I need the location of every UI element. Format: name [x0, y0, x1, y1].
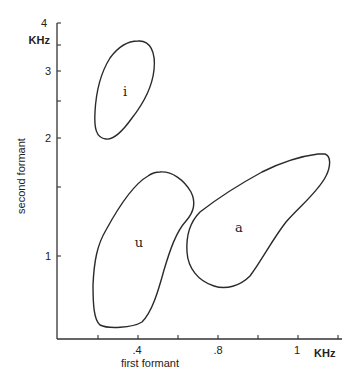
x-tick-label-04: .4	[132, 344, 141, 356]
vowel-label-i: i	[123, 84, 127, 99]
vowel-label-u: u	[135, 235, 143, 250]
x-axis-title: first formant	[121, 357, 179, 369]
y-tick-label-2: 2	[45, 132, 51, 144]
y-tick-label-1: 1	[45, 250, 51, 262]
y-unit-label: KHz	[29, 34, 51, 46]
x-unit-label: KHz	[314, 347, 336, 359]
y-tick-label-3: 3	[45, 65, 51, 77]
y-axis-title: second formant	[15, 138, 27, 214]
x-tick-label-1: 1	[294, 344, 300, 356]
vowel-label-a: a	[235, 220, 243, 235]
y-tick-label-4: 4	[41, 17, 47, 29]
vowel-region-u	[93, 172, 194, 327]
x-tick-label-08: .8	[213, 344, 222, 356]
formant-chart: 4 3 2 1 KHz second formant .4 .8 1 KHz f…	[0, 0, 357, 379]
vowel-region-a	[187, 154, 330, 288]
